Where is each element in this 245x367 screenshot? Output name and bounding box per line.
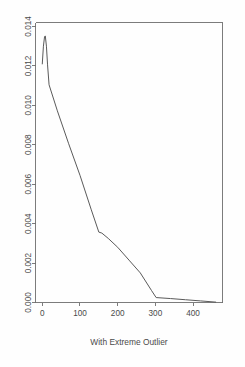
y-tick-label: 0.008 xyxy=(24,134,33,155)
x-axis-title: With Extreme Outlier xyxy=(90,337,167,347)
chart-canvas: 0.0000.0020.0040.0060.0080.0100.0120.014… xyxy=(0,0,245,367)
x-tick-label: 200 xyxy=(111,309,125,318)
y-tick-label: 0.012 xyxy=(24,55,33,76)
y-tick-label: 0.010 xyxy=(24,95,33,116)
plot-figure: 0.0000.0020.0040.0060.0080.0100.0120.014… xyxy=(0,0,245,367)
y-tick-label: 0.000 xyxy=(24,292,33,313)
y-tick-label: 0.006 xyxy=(24,174,33,195)
x-tick-label: 100 xyxy=(73,309,87,318)
y-tick-label: 0.004 xyxy=(24,213,33,234)
x-tick-label: 400 xyxy=(186,309,200,318)
y-tick-label: 0.014 xyxy=(24,16,33,37)
y-tick-label: 0.002 xyxy=(24,252,33,273)
x-tick-label: 300 xyxy=(149,309,163,318)
x-tick-label: 0 xyxy=(40,309,45,318)
